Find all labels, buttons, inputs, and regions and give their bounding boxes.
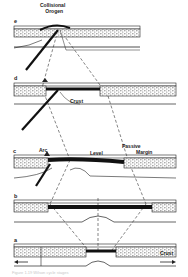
stage-c-label: c bbox=[13, 148, 16, 154]
panel-b bbox=[14, 200, 176, 222]
stage-a-label: a bbox=[14, 237, 17, 243]
panel-c bbox=[14, 151, 176, 186]
level-label: Level bbox=[90, 150, 103, 156]
passive-margin-label: Passive Margin bbox=[122, 143, 152, 155]
figure-caption: Figure 1.19 Wilson cycle stages bbox=[12, 270, 68, 275]
correlation-lines bbox=[42, 30, 146, 252]
stage-d-label: d bbox=[14, 75, 17, 81]
label-line-2: Margin bbox=[122, 149, 152, 155]
panel-d bbox=[14, 78, 176, 130]
crust-label-a: Crust bbox=[160, 250, 173, 256]
crust-label-d: Crust bbox=[70, 98, 83, 104]
panel-e bbox=[14, 25, 140, 70]
stage-e-label: e bbox=[14, 18, 17, 24]
wilson-cycle-diagram bbox=[0, 0, 188, 277]
label-line-2: Orogen bbox=[40, 8, 65, 14]
collisional-orogen-label: Collisional Orogen bbox=[40, 2, 65, 14]
stage-b-label: b bbox=[14, 193, 17, 199]
arc-label: Arc bbox=[39, 147, 47, 153]
panel-a bbox=[14, 244, 176, 266]
